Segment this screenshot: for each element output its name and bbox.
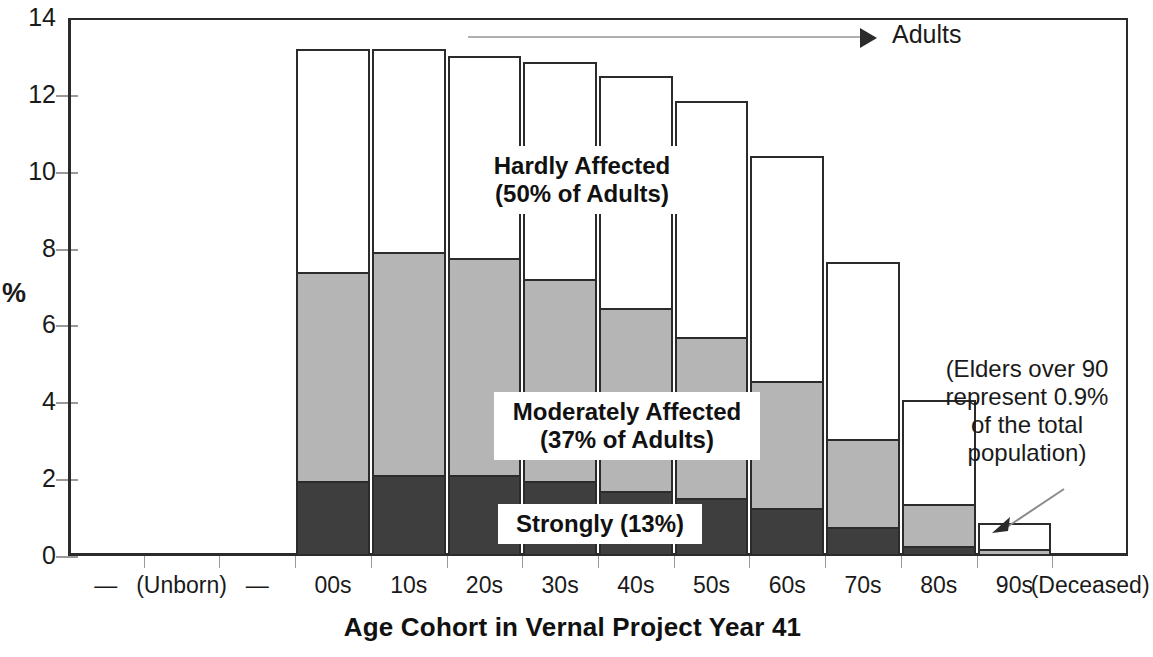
segment-strongly-10s (374, 475, 444, 554)
callout-hardly-line2: (50% of Adults) (476, 180, 688, 208)
callout-strongly-affected: Strongly (13%) (498, 504, 702, 544)
x-axis-tick-mark (674, 556, 675, 568)
adults-range-annotation: Adults (468, 25, 888, 49)
x-axis-tick-mark (219, 556, 220, 568)
bar-10s[interactable] (372, 49, 446, 556)
y-axis-tick-label: 0 (10, 543, 56, 568)
segment-moderately-60s (752, 381, 822, 508)
bar-60s[interactable] (750, 156, 824, 556)
arrow-right-icon (860, 28, 877, 48)
x-axis-tick-mark (901, 556, 902, 568)
callout-moderate-line2: (37% of Adults) (504, 426, 750, 454)
callout-moderate-line1: Moderately Affected (504, 398, 750, 426)
x-axis-tick-mark (522, 556, 523, 568)
segment-moderately-80s (904, 504, 974, 546)
x-axis-tick-mark (447, 556, 448, 568)
x-axis-tick-mark (144, 556, 145, 568)
y-axis-tick-label: 8 (10, 236, 56, 261)
bar-00s[interactable] (296, 49, 370, 556)
bars-layer (68, 18, 1128, 556)
bar-20s[interactable] (448, 56, 522, 556)
segment-moderately-70s (828, 439, 898, 527)
elders-note-arrow (990, 487, 1066, 533)
adults-range-label: Adults (892, 20, 961, 49)
segment-moderately-10s (374, 252, 444, 475)
callout-moderately-affected: Moderately Affected (37% of Adults) (494, 392, 760, 460)
segment-strongly-80s (904, 546, 974, 554)
y-axis-tick-label: 12 (10, 82, 56, 107)
x-axis-tick-mark (1052, 556, 1053, 568)
segment-strongly-70s (828, 527, 898, 554)
segment-moderately-90s (980, 549, 1050, 554)
callout-hardly-affected: Hardly Affected (50% of Adults) (466, 146, 698, 214)
x-axis-tick-mark (598, 556, 599, 568)
segment-strongly-60s (752, 508, 822, 554)
elders-note: (Elders over 90 represent 0.9% of the to… (918, 355, 1136, 467)
bar-70s[interactable] (826, 262, 900, 556)
x-axis-tick-mark (977, 556, 978, 568)
x-axis-tick-mark (371, 556, 372, 568)
adults-range-line (468, 36, 866, 38)
callout-strong-line1: Strongly (13%) (508, 510, 692, 538)
elders-note-line4: population) (918, 439, 1136, 467)
elders-note-line2: represent 0.9% (918, 383, 1136, 411)
x-axis-tick-label: (Deceased) (1014, 572, 1153, 598)
y-axis-tick-label: 14 (10, 5, 56, 30)
y-axis-tick-label: 6 (10, 312, 56, 337)
elders-note-line3: of the total (918, 411, 1136, 439)
callout-hardly-line1: Hardly Affected (476, 152, 688, 180)
y-axis-tick-mark (56, 556, 78, 558)
y-axis-tick-label: 10 (10, 159, 56, 184)
x-axis-tick-mark (749, 556, 750, 568)
x-axis-title: Age Cohort in Vernal Project Year 41 (0, 612, 1145, 643)
x-axis-tick-mark (295, 556, 296, 568)
elders-note-line1: (Elders over 90 (918, 355, 1136, 383)
y-axis-title: % (2, 278, 26, 309)
bar-30s[interactable] (523, 62, 597, 556)
x-axis-tick-mark (825, 556, 826, 568)
segment-strongly-00s (298, 481, 368, 554)
y-axis-tick-label: 4 (10, 389, 56, 414)
y-axis-tick-label: 2 (10, 466, 56, 491)
segment-moderately-00s (298, 272, 368, 481)
